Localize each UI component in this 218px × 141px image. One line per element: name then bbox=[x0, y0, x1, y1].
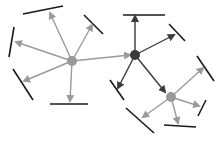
boundary-bar bbox=[198, 100, 206, 116]
edge-arrow bbox=[72, 55, 130, 61]
boundary-bar bbox=[164, 125, 196, 127]
edge-arrow bbox=[70, 61, 72, 101]
boundary-bar bbox=[84, 15, 103, 34]
boundary-bar bbox=[169, 24, 185, 41]
nodes-layer bbox=[67, 50, 176, 102]
edge-arrow bbox=[171, 68, 203, 97]
edge-arrow bbox=[16, 42, 72, 61]
node-center bbox=[130, 50, 140, 60]
network-diagram bbox=[0, 0, 218, 141]
edge-arrow bbox=[135, 55, 165, 92]
node-left bbox=[67, 56, 77, 66]
edge-arrow bbox=[143, 97, 171, 117]
boundary-bar bbox=[9, 27, 14, 57]
boundary-bar bbox=[13, 69, 33, 100]
edge-arrow bbox=[135, 35, 174, 55]
edge-arrow bbox=[24, 61, 72, 81]
boundary-bar bbox=[23, 6, 63, 14]
node-right bbox=[166, 92, 176, 102]
edge-arrow bbox=[50, 13, 72, 61]
edge-arrow bbox=[118, 55, 135, 88]
boundary-bar bbox=[110, 80, 124, 100]
boundary-bar bbox=[197, 56, 214, 81]
bars-layer bbox=[9, 6, 214, 133]
edge-arrow bbox=[72, 25, 92, 61]
